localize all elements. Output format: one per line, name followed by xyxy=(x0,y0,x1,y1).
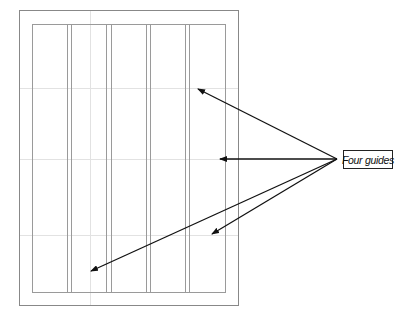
callout-arrows xyxy=(91,89,337,271)
callout-label-text: Four guides xyxy=(342,154,394,166)
page-border xyxy=(20,11,239,306)
column-guides xyxy=(68,24,190,292)
callout-label: Four guides xyxy=(343,150,393,169)
arrow xyxy=(198,89,337,159)
arrow xyxy=(212,159,337,234)
margin-border xyxy=(33,25,226,293)
arrow xyxy=(91,159,337,271)
ruler-guides xyxy=(19,10,238,305)
